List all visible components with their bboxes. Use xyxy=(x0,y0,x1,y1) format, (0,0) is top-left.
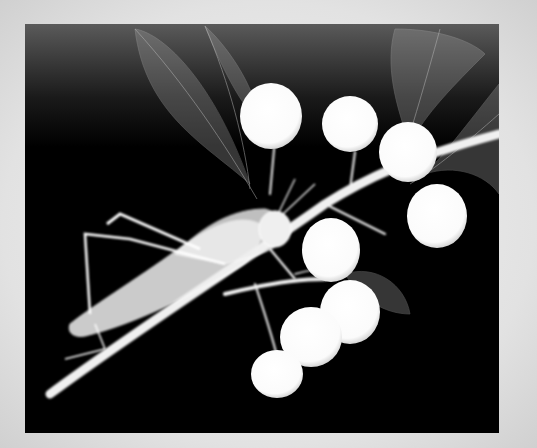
xray-photo xyxy=(25,24,499,433)
grasshopper xyxy=(65,179,315,359)
xray-illustration xyxy=(25,24,499,433)
